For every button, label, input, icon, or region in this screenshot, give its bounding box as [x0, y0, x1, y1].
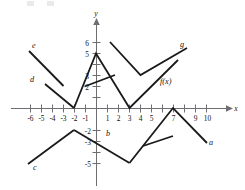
curve-d — [45, 84, 74, 108]
y-tick-label: 5 — [85, 50, 89, 59]
x-tick-label: -4 — [49, 114, 55, 123]
x-tick-label: 7 — [172, 114, 176, 123]
y-tick-label: 6 — [85, 39, 89, 48]
x-tick-label: -6 — [27, 114, 33, 123]
curve-b — [74, 130, 130, 163]
segment-upper-cross — [85, 75, 116, 87]
coordinate-plane: -6 -5 -4 -3 -2 -1 1 2 3 4 5 7 9 10 6 5 3… — [0, 0, 245, 190]
x-axis — [11, 105, 233, 112]
x-axis-label: x — [233, 104, 238, 113]
graph-figure: -6 -5 -4 -3 -2 -1 1 2 3 4 5 7 9 10 6 5 3… — [0, 0, 245, 190]
x-tick-label: -3 — [60, 114, 66, 123]
curve-label-f: f(x) — [160, 77, 172, 86]
x-tick-label: 10 — [204, 114, 212, 123]
curve-c — [28, 130, 74, 164]
curve-label-b: b — [106, 129, 110, 138]
curve-label-g: g — [180, 40, 184, 49]
x-tick-label: -5 — [38, 114, 44, 123]
curve-e — [29, 51, 64, 86]
x-tick-label: 3 — [128, 114, 132, 123]
y-tick-label: -3 — [85, 138, 91, 147]
y-axis-label: y — [93, 9, 98, 18]
x-tick-label: 1 — [106, 114, 110, 123]
y-tick-label: -5 — [85, 160, 91, 169]
x-tick-label: 9 — [194, 114, 198, 123]
y-tick-label: 2 — [85, 83, 89, 92]
x-tick-label: -1 — [82, 114, 88, 123]
curve-label-c: c — [33, 163, 37, 172]
x-tick-label: 5 — [150, 114, 154, 123]
y-tick-label: -2 — [85, 127, 91, 136]
curve-g — [110, 42, 187, 75]
curve-label-d: d — [30, 75, 35, 84]
x-tick-label: -2 — [71, 114, 77, 123]
y-axis-arrowhead — [93, 18, 100, 25]
y-tick-label: 3 — [85, 72, 89, 81]
x-tick-label: 2 — [117, 114, 121, 123]
scan-artifact-right — [47, 1, 54, 6]
x-axis-arrowhead — [226, 105, 233, 112]
y-tick-labels: 6 5 3 2 -2 -3 -5 — [85, 39, 91, 169]
scan-artifact-left — [27, 1, 34, 6]
x-tick-label: 4 — [139, 114, 143, 123]
y-axis — [93, 18, 100, 186]
curve-label-a: a — [209, 138, 213, 147]
curve-label-e: e — [32, 41, 36, 50]
